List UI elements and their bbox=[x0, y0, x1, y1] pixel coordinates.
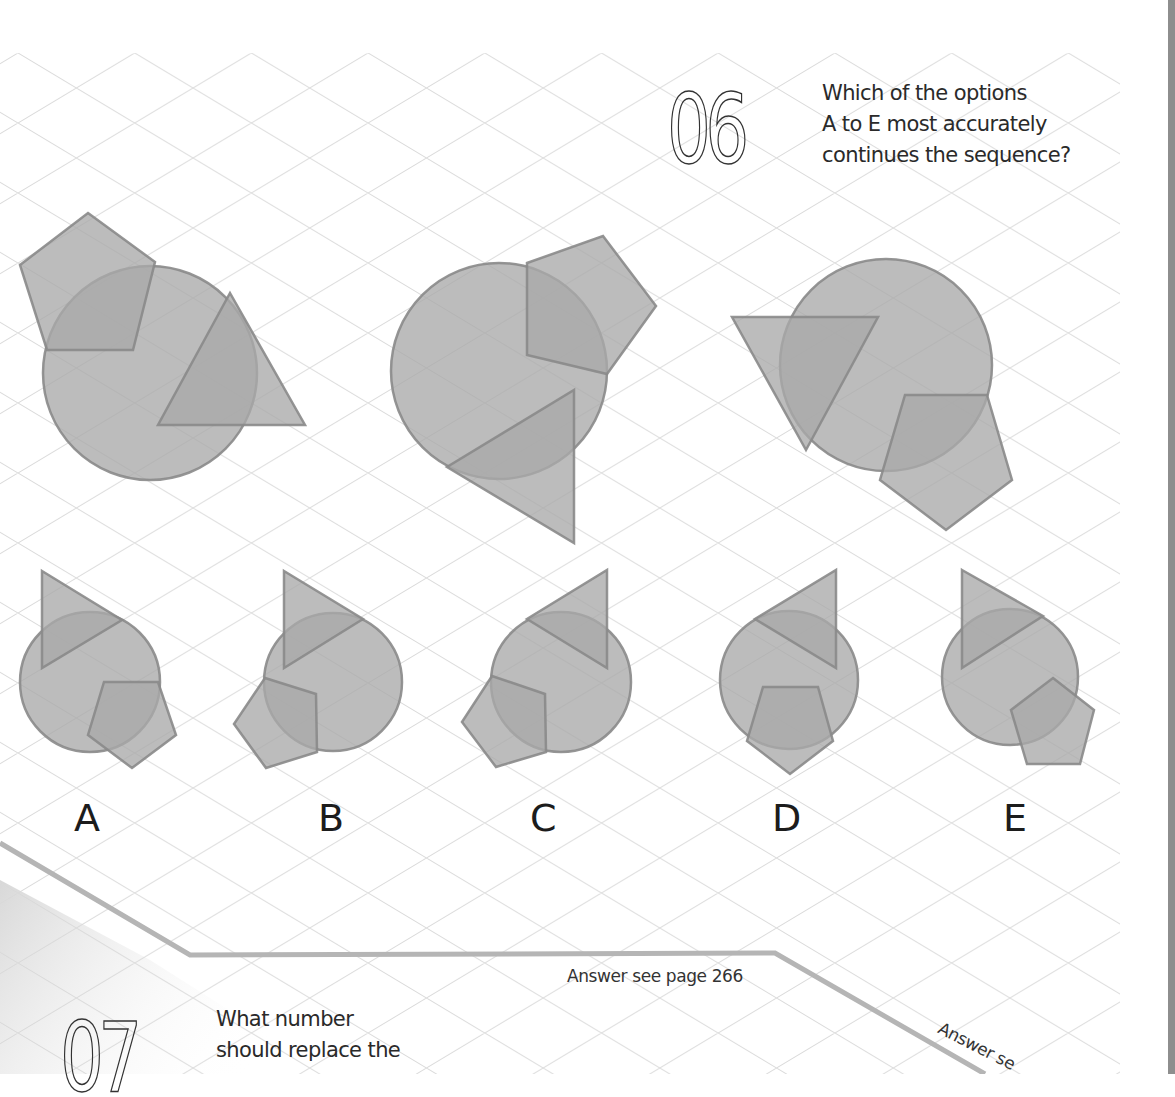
question-number-07: 07 bbox=[60, 1010, 136, 1097]
question-06-text: Which of the options A to E most accurat… bbox=[822, 78, 1071, 171]
question-07-line-1: What number bbox=[216, 1004, 400, 1035]
question-06-line-3: continues the sequence? bbox=[822, 140, 1071, 171]
option-label-a[interactable]: A bbox=[74, 796, 100, 840]
question-07-text: What number should replace the bbox=[216, 1004, 400, 1066]
option-label-c[interactable]: C bbox=[530, 796, 557, 840]
question-07-line-2: should replace the bbox=[216, 1035, 400, 1066]
option-label-d[interactable]: D bbox=[772, 796, 801, 840]
option-label-b[interactable]: B bbox=[318, 796, 344, 840]
page-edge bbox=[1168, 0, 1175, 1074]
question-number-06: 06 bbox=[667, 82, 743, 178]
question-06-line-2: A to E most accurately bbox=[822, 109, 1071, 140]
answer-reference: Answer see page 266 bbox=[567, 966, 743, 986]
option-label-e[interactable]: E bbox=[1003, 796, 1027, 840]
isometric-grid bbox=[0, 53, 1120, 1074]
question-06-line-1: Which of the options bbox=[822, 78, 1071, 109]
